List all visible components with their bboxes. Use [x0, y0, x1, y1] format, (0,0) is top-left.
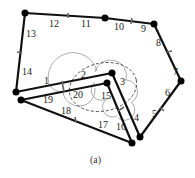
edge-label: 17	[98, 119, 108, 130]
edge-label: 8	[156, 37, 161, 48]
edge-label: 7	[173, 66, 178, 77]
edge-label: 4	[134, 112, 139, 123]
edge-label: 13	[26, 28, 36, 39]
edge-label: 3	[120, 76, 125, 87]
edge-ticks	[17, 13, 172, 122]
edge-label: 5	[152, 108, 157, 119]
edge-label: 15	[101, 90, 111, 101]
edge-label: 12	[49, 18, 59, 29]
edge-label: 6	[165, 87, 170, 98]
edge-label: 20	[73, 89, 83, 100]
edge-label: 19	[43, 94, 53, 105]
dashed-ellipse	[65, 56, 141, 117]
edge-label: 1	[44, 75, 49, 86]
edge-label: 11	[81, 18, 91, 29]
edge-label: 2	[81, 69, 86, 80]
figure-caption: (a)	[90, 154, 101, 166]
polygon-diagram: 1 2 3 4 5 6 7 8 9 10 11 12 13 14 15 16 1…	[0, 0, 195, 178]
edge-label: 10	[114, 21, 124, 32]
edge-label: 18	[61, 105, 71, 116]
edge-label: 9	[141, 23, 146, 34]
edge-label: 14	[22, 66, 32, 77]
edge-label: 16	[116, 121, 126, 132]
